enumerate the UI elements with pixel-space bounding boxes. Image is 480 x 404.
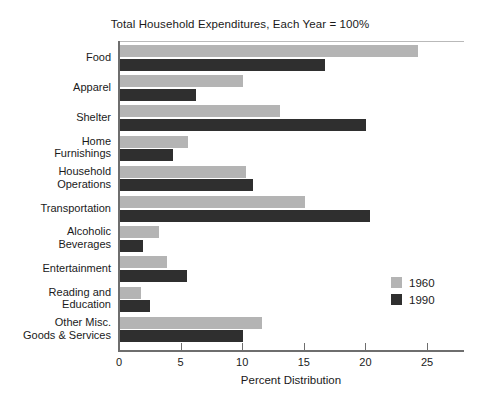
legend-item-1990: 1990 (391, 292, 435, 307)
x-tick-label-15: 15 (298, 356, 310, 368)
x-tick-label-20: 20 (359, 356, 371, 368)
bar-1990-3 (120, 149, 173, 161)
legend-item-1960: 1960 (391, 275, 435, 290)
bar-1990-0 (120, 59, 325, 71)
category-label-9: Other Misc. Goods & Services (23, 316, 111, 341)
bar-1960-8 (120, 287, 141, 299)
x-tick-5 (181, 343, 182, 350)
bar-1960-6 (120, 226, 159, 238)
plot-top-border (118, 41, 464, 42)
bar-1960-7 (120, 256, 167, 268)
bar-1960-0 (120, 45, 418, 57)
x-tick-label-25: 25 (421, 356, 433, 368)
bar-1960-5 (120, 196, 305, 208)
bar-1990-6 (120, 240, 143, 252)
bar-1960-9 (120, 317, 262, 329)
bar-1990-1 (120, 89, 196, 101)
category-label-2: Shelter (76, 111, 111, 124)
legend-swatch-1960 (391, 277, 402, 288)
x-tick-label-0: 0 (116, 356, 122, 368)
category-label-8: Reading and Education (49, 286, 111, 311)
bar-1990-9 (120, 330, 243, 342)
bar-1960-1 (120, 75, 243, 87)
legend-label-1990: 1990 (409, 294, 435, 306)
category-label-7: Entertainment (43, 262, 111, 275)
x-tick-20 (365, 343, 366, 350)
category-label-0: Food (86, 51, 111, 64)
x-tick-label-10: 10 (236, 356, 248, 368)
bar-1990-8 (120, 300, 150, 312)
legend-swatch-1990 (391, 294, 402, 305)
category-label-5: Transportation (40, 202, 111, 215)
x-tick-10 (242, 343, 243, 350)
x-axis-title: Percent Distribution (118, 374, 464, 386)
category-label-3: Home Furnishings (54, 135, 111, 160)
chart-title: Total Household Expenditures, Each Year … (0, 18, 480, 30)
bar-1960-3 (120, 136, 188, 148)
bar-1960-4 (120, 166, 246, 178)
chart-legend: 19601990 (391, 275, 435, 309)
bar-1990-7 (120, 270, 187, 282)
bar-1990-5 (120, 210, 370, 222)
legend-label-1960: 1960 (409, 277, 435, 289)
x-tick-15 (304, 343, 305, 350)
x-axis-line (118, 350, 464, 352)
bar-1990-4 (120, 179, 253, 191)
household-expenditures-bar-chart: Total Household Expenditures, Each Year … (0, 0, 480, 404)
x-tick-0 (119, 343, 120, 350)
x-tick-label-5: 5 (178, 356, 184, 368)
category-label-4: Household Operations (57, 165, 111, 190)
category-label-6: Alcoholic Beverages (58, 225, 111, 250)
bar-1990-2 (120, 119, 366, 131)
x-tick-25 (427, 343, 428, 350)
category-label-1: Apparel (73, 81, 111, 94)
bar-1960-2 (120, 105, 280, 117)
